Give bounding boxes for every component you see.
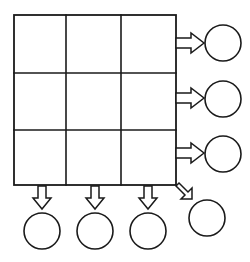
row-3-result-circle[interactable] (205, 136, 241, 172)
right-circle-group (205, 25, 241, 172)
column-1-arrow-icon[interactable] (33, 186, 51, 209)
grid-cell-r3c3[interactable] (121, 130, 176, 185)
column-3-arrow-icon[interactable] (139, 186, 157, 209)
3x3-grid (14, 15, 176, 185)
diagram-canvas (0, 0, 250, 262)
grid-arrow-diagram (0, 0, 250, 262)
grid-cell-r3c1[interactable] (14, 130, 66, 185)
right-arrow-group (176, 33, 204, 163)
grid-cell-r2c3[interactable] (121, 73, 176, 130)
grid-cell-r3c2[interactable] (66, 130, 121, 185)
bottom-circle-group (24, 200, 225, 249)
diagonal-result-circle[interactable] (189, 200, 225, 236)
column-2-result-circle[interactable] (77, 213, 113, 249)
grid-cell-r2c2[interactable] (66, 73, 121, 130)
row-2-arrow-icon[interactable] (176, 88, 204, 108)
row-3-arrow-icon[interactable] (176, 143, 204, 163)
grid-cell-r1c3[interactable] (121, 15, 176, 73)
grid-cell-r1c1[interactable] (14, 15, 66, 73)
grid-cell-r2c1[interactable] (14, 73, 66, 130)
corner-diagonal-arrow-icon[interactable] (176, 183, 192, 199)
corner-diagonal-arrow-group (176, 183, 192, 199)
bottom-arrow-group (33, 186, 157, 209)
row-2-result-circle[interactable] (205, 81, 241, 117)
grid-cell-r1c2[interactable] (66, 15, 121, 73)
column-1-result-circle[interactable] (24, 213, 60, 249)
column-2-arrow-icon[interactable] (86, 186, 104, 209)
column-3-result-circle[interactable] (130, 213, 166, 249)
row-1-arrow-icon[interactable] (176, 33, 204, 53)
row-1-result-circle[interactable] (205, 25, 241, 61)
